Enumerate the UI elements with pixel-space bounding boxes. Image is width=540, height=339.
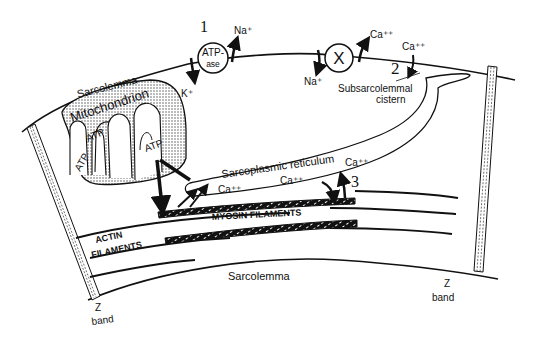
myosin-filaments bbox=[158, 198, 357, 244]
sodium-in-label: Na⁺ bbox=[304, 76, 322, 87]
step-1-number: 1 bbox=[200, 18, 208, 35]
subsarcolemmal-cistern-label-line2: cistern bbox=[376, 94, 405, 105]
calcium-subsarcolemmal-label: Ca⁺⁺ bbox=[402, 41, 425, 52]
calcium-sr-label-1: Ca⁺⁺ bbox=[218, 184, 241, 195]
calcium-release-arrows bbox=[322, 178, 345, 198]
calcium-out-label: Ca⁺⁺ bbox=[370, 29, 393, 40]
calcium-sr-label-3: Ca⁺⁺ bbox=[345, 157, 368, 168]
atpase-pump: ATP- ase bbox=[191, 42, 236, 78]
muscle-cell-diagram: Mitochondrion ATP ATP ATP ATP- ase bbox=[0, 0, 540, 339]
z-band-left-label: band bbox=[91, 313, 115, 327]
z-band-right-label: band bbox=[432, 292, 454, 303]
step-2-number: 2 bbox=[391, 59, 400, 78]
calcium-sr-label-2: Ca⁺⁺ bbox=[280, 175, 303, 186]
step-3-number: 3 bbox=[351, 173, 359, 190]
sodium-out-label: Na⁺ bbox=[234, 25, 252, 36]
atpase-label-line1: ATP- bbox=[202, 47, 224, 58]
exchanger-label: X bbox=[333, 49, 344, 68]
potassium-in-label: K⁺ bbox=[181, 88, 193, 99]
subsarcolemmal-cistern-label-line1: Subsarcolemmal bbox=[338, 83, 412, 94]
z-band-right-z: Z bbox=[444, 278, 450, 289]
atpase-label-line2: ase bbox=[206, 59, 220, 69]
z-band-right bbox=[474, 66, 497, 272]
subsarcolemmal-pointer bbox=[396, 73, 420, 81]
z-band-left-z: Z bbox=[95, 302, 101, 313]
sarcolemma-bottom-label: Sarcolemma bbox=[228, 270, 291, 282]
